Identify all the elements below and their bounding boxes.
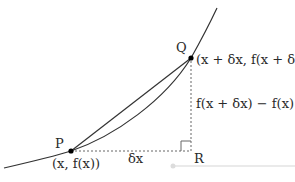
function-curve	[4, 8, 217, 168]
delta-y-label: f(x + δx) − f(x)	[196, 97, 294, 111]
slider-handle[interactable]	[171, 164, 176, 169]
chord-pq	[71, 58, 191, 151]
delta-x-label: δx	[128, 152, 143, 166]
point-q	[188, 55, 193, 60]
point-p-coords: (x, f(x))	[52, 157, 100, 171]
point-q-label: Q	[176, 41, 187, 55]
point-p-label: P	[55, 137, 64, 151]
point-r-label: R	[194, 152, 204, 166]
secant-diagram	[0, 0, 295, 182]
right-angle-marker	[181, 141, 191, 151]
point-p	[68, 148, 73, 153]
point-q-coords: (x + δx, f(x + δx))	[196, 53, 295, 67]
